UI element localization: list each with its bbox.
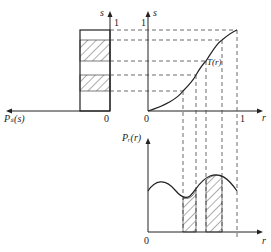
left-xaxis-label: Pₛ(s) [4, 114, 25, 124]
bottom-zero-tick: 0 [144, 236, 149, 246]
bottom-r-axis-label: r [262, 236, 266, 246]
histogram-transform-diagram: Pₛ(s) s 1 0 s 1 0 1 r T(r) Pᵣ(r) 0 r [0, 0, 271, 252]
mid-s-axis-label: s [153, 8, 157, 18]
diagram-graphics [0, 0, 271, 252]
left-one-tick: 1 [114, 18, 119, 28]
mid-one-tick: 1 [141, 18, 146, 28]
left-panel [6, 11, 113, 114]
mid-r-axis-label: r [262, 113, 266, 123]
mid-zero-tick: 0 [144, 114, 149, 124]
mid-r-one-tick: 1 [240, 114, 245, 124]
left-zero-tick: 0 [104, 114, 109, 124]
input-pdf-curve [148, 175, 237, 198]
bottom-yaxis-label: Pᵣ(r) [122, 133, 141, 143]
transform-panel [146, 11, 264, 114]
input-histogram-panel [146, 138, 264, 235]
left-s-axis-label: s [100, 8, 104, 18]
curve-label: T(r) [207, 58, 222, 67]
transform-curve [148, 30, 237, 111]
